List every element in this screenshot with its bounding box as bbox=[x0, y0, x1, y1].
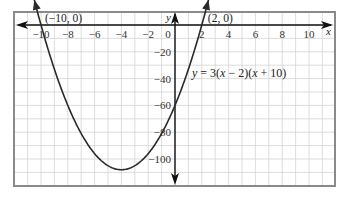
x-tick-label: −2 bbox=[142, 28, 154, 40]
x-tick-label: −10 bbox=[32, 28, 50, 40]
y-tick-label: −20 bbox=[154, 46, 172, 58]
root-label-right: (2, 0) bbox=[208, 12, 233, 25]
y-tick-label: −60 bbox=[154, 99, 172, 111]
x-tick-label: 10 bbox=[304, 28, 316, 40]
x-tick-label: −4 bbox=[116, 28, 128, 40]
x-axis-label: x bbox=[325, 25, 331, 37]
y-axis-label: y bbox=[165, 11, 171, 23]
parabola-chart: −10−8−6−4−20246810−20−40−60−80−100 (−10,… bbox=[0, 0, 348, 199]
curve-arrowheads bbox=[33, 0, 210, 11]
curve-left-arrow-icon bbox=[33, 0, 41, 11]
x-tick-label: 6 bbox=[253, 28, 259, 40]
y-tick-label: −40 bbox=[154, 73, 172, 85]
x-tick-label: 4 bbox=[226, 28, 232, 40]
curve-right-arrow-icon bbox=[202, 0, 210, 11]
x-tick-label: −6 bbox=[89, 28, 101, 40]
y-tick-label: −100 bbox=[148, 153, 171, 165]
x-tick-label: 8 bbox=[279, 28, 285, 40]
tick-labels: −10−8−6−4−20246810−20−40−60−80−100 bbox=[32, 28, 315, 165]
root-label-left: (−10, 0) bbox=[45, 12, 82, 25]
equation-label: y = 3(x − 2)(x + 10) bbox=[191, 66, 286, 80]
x-tick-label: −8 bbox=[62, 28, 74, 40]
x-tick-label: 0 bbox=[165, 28, 171, 40]
